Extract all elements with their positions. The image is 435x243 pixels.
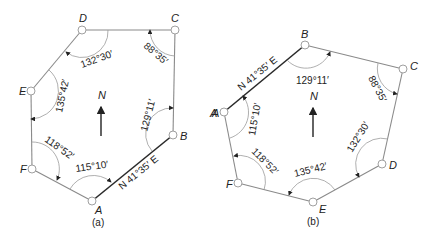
station-e [27, 87, 35, 95]
edge-af [32, 169, 92, 201]
edge-ab-bearing [224, 45, 305, 112]
north-label: N [98, 89, 106, 101]
station-label-e: E [319, 203, 327, 215]
edge-bc [305, 45, 403, 69]
traverse-diagram-b: B C D E F A 129°11′ 88°35′ 132°30′ 135°4… [211, 28, 418, 227]
angle-label-c: 88°35′ [142, 40, 171, 67]
station-b [301, 41, 309, 49]
angle-label-b: 129°11′ [138, 98, 157, 133]
traverse-figure: D C B A F E 132°30′ 88°35′ 129°11′ 115°1… [0, 0, 435, 243]
north-label: N [310, 90, 318, 102]
angle-arc-a [70, 175, 111, 189]
station-label-e: E [19, 85, 27, 97]
angle-label-c: 88°35′ [366, 74, 389, 104]
edge-ed [31, 30, 82, 91]
edge-fe [31, 91, 32, 169]
station-label-a: A [211, 107, 219, 119]
angle-arc-e [289, 178, 335, 195]
station-f [28, 165, 36, 173]
station-c [171, 26, 179, 34]
station-label-a: A [94, 204, 102, 216]
station-e [309, 198, 317, 206]
angle-label-d: 132°30′ [344, 120, 371, 154]
station-label-f: F [20, 163, 28, 175]
angle-label-d: 132°30′ [79, 48, 115, 70]
angle-label-e: 135°42′ [53, 78, 71, 113]
station-b [169, 131, 177, 139]
station-label-d: D [389, 159, 397, 171]
station-label-f: F [226, 178, 234, 190]
station-f [234, 179, 242, 187]
angle-label-f: 118°52′ [250, 146, 281, 177]
station-a [220, 108, 228, 116]
bearing-label: N 41°35′ E [116, 153, 160, 192]
station-label-c: C [410, 60, 418, 72]
station-d [378, 160, 386, 168]
angle-label-f: 118°52′ [43, 134, 76, 162]
edge-fa [224, 112, 238, 183]
station-label-b: B [301, 28, 308, 40]
station-label-c: C [171, 12, 179, 24]
angle-label-a: 115°10′ [246, 102, 263, 136]
traverse-diagram-a: D C B A F E 132°30′ 88°35′ 129°11′ 115°1… [19, 12, 187, 228]
angle-label-a: 115°10′ [75, 158, 109, 173]
station-label-d: D [79, 12, 87, 24]
edge-cd [382, 69, 403, 164]
bearing-label: N 41°35′ E [235, 54, 279, 93]
angle-label-e: 135°42′ [293, 160, 328, 179]
edge-ef [238, 183, 313, 202]
station-label-b: B [180, 130, 187, 142]
station-c [399, 65, 407, 73]
station-d [78, 26, 86, 34]
angle-label-b: 129°11′ [296, 75, 329, 86]
edge-cb [173, 30, 175, 135]
caption-b: (b) [307, 216, 319, 227]
caption-a: (a) [92, 217, 104, 228]
